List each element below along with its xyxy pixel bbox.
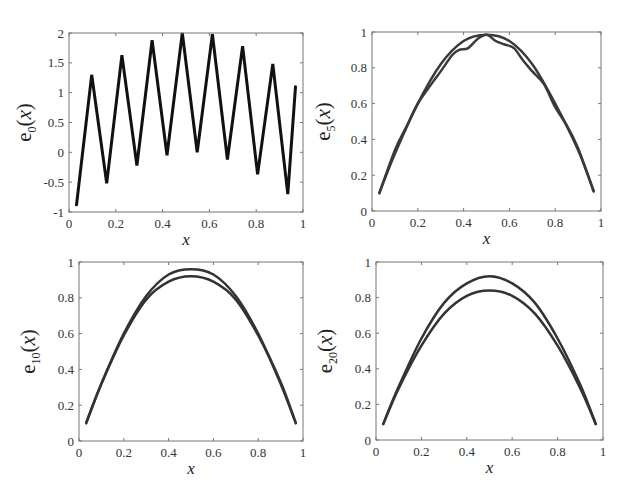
x-tick-label: 0.2 [413, 444, 429, 459]
line-series-0 [77, 33, 296, 205]
y-tick-label: 0.6 [58, 326, 75, 341]
y-tick-label: 0.8 [351, 60, 367, 75]
x-tick-label: 0.8 [549, 444, 565, 459]
x-tick-label: 0.8 [248, 216, 264, 231]
subplot-e5: 00.20.40.60.8100.20.40.60.81xe5(x) [311, 25, 604, 249]
y-tick-label: 1 [58, 85, 65, 100]
x-tick-label: 0.8 [250, 445, 266, 460]
y-tick-label: 0.4 [351, 132, 368, 147]
x-tick-label: 1 [598, 215, 605, 230]
y-tick-label: 1 [361, 25, 368, 40]
x-axis-label: x [485, 458, 494, 477]
x-tick-label: 0.6 [501, 215, 518, 230]
x-axis-label: x [482, 229, 491, 248]
subplot-e10: 00.20.40.60.8100.20.40.60.81xe10(x) [16, 255, 306, 479]
x-tick-label: 0.2 [108, 216, 124, 231]
figure: 00.20.40.60.81-1-0.500.511.52xe0(x) 00.2… [0, 0, 629, 500]
x-tick-label: 0.6 [201, 216, 218, 231]
y-axis-label: e0(x) [12, 103, 39, 142]
y-tick-label: 0.4 [355, 361, 372, 376]
y-tick-label: 0.4 [58, 362, 75, 377]
y-tick-label: 1 [68, 255, 75, 270]
x-axis-label: x [186, 459, 195, 478]
line-series-1 [383, 291, 595, 425]
y-tick-label: 0.2 [58, 398, 74, 413]
plot-series-group [383, 276, 595, 424]
x-tick-label: 0.4 [455, 215, 472, 230]
plot-series-group [86, 269, 296, 423]
axes-frame [79, 262, 303, 441]
y-tick-label: 1.5 [48, 55, 64, 70]
subplot-e0: 00.20.40.60.81-1-0.500.511.52xe0(x) [12, 26, 306, 250]
y-tick-label: 2 [58, 26, 65, 41]
x-tick-label: 0.6 [504, 444, 521, 459]
y-tick-label: 0.2 [351, 168, 367, 183]
x-tick-label: 0.4 [154, 216, 171, 231]
y-tick-label: -0.5 [43, 175, 64, 190]
axes-frame [376, 262, 603, 440]
x-tick-label: 0 [369, 215, 376, 230]
x-tick-label: 0.2 [116, 445, 132, 460]
x-tick-label: 1 [300, 445, 307, 460]
y-tick-label: 0 [361, 204, 368, 219]
y-tick-label: 0 [58, 145, 65, 160]
y-tick-label: 0.5 [48, 115, 64, 130]
y-tick-label: -1 [53, 205, 64, 220]
y-tick-label: 1 [365, 255, 372, 270]
y-tick-label: 0.6 [351, 96, 368, 111]
y-tick-label: 0 [365, 433, 372, 448]
y-tick-label: 0.2 [355, 397, 371, 412]
y-tick-label: 0.8 [58, 290, 74, 305]
axes-frame [372, 32, 601, 211]
y-tick-label: 0.8 [355, 290, 371, 305]
x-tick-label: 0.4 [459, 444, 476, 459]
plot-series-group [379, 35, 593, 193]
line-series-0 [383, 276, 595, 424]
plot-series-group [77, 33, 296, 205]
y-tick-label: 0 [68, 434, 75, 449]
x-axis-label: x [181, 230, 190, 249]
line-series-1 [86, 276, 296, 423]
x-tick-label: 0 [373, 444, 380, 459]
y-axis-label: e10(x) [16, 329, 43, 374]
y-axis-label: e20(x) [313, 329, 340, 374]
x-tick-label: 0.8 [547, 215, 563, 230]
y-axis-label: e5(x) [311, 102, 338, 141]
x-tick-label: 0 [76, 445, 83, 460]
x-tick-label: 0.6 [205, 445, 222, 460]
x-tick-label: 0.4 [160, 445, 177, 460]
y-tick-label: 0.6 [355, 326, 372, 341]
x-tick-label: 1 [300, 216, 307, 231]
x-tick-label: 1 [600, 444, 607, 459]
subplot-e20: 00.20.40.60.8100.20.40.60.81xe20(x) [313, 255, 606, 478]
x-tick-label: 0 [66, 216, 73, 231]
x-tick-label: 0.2 [410, 215, 426, 230]
